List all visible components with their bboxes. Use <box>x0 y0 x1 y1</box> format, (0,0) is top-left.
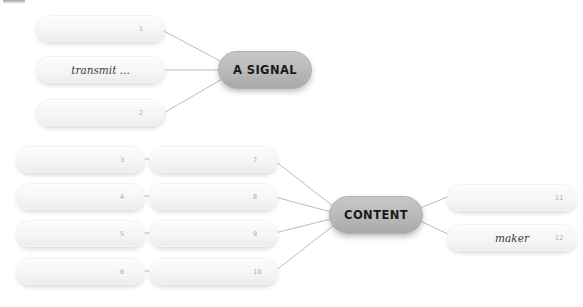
clipped-text-artifact <box>3 0 25 4</box>
hub-label: A SIGNAL <box>233 63 297 77</box>
node-label: transmit ... <box>37 64 164 76</box>
node-number: 4 <box>120 193 124 201</box>
mindmap-node-leaf-4[interactable]: 3 <box>16 146 145 173</box>
mindmap-canvas: 1transmit ...234567891011maker12A SIGNAL… <box>0 0 583 307</box>
edge-leaf-11-to-content <box>275 226 333 271</box>
edge-content-to-leaf-13 <box>420 221 450 235</box>
edge-content-to-leaf-12 <box>420 196 450 208</box>
mindmap-node-leaf-5[interactable]: 4 <box>16 183 145 210</box>
edge-leaf-8-to-content <box>275 161 333 206</box>
mindmap-node-leaf-6[interactable]: 5 <box>16 220 145 247</box>
mindmap-node-leaf-8[interactable]: 7 <box>149 146 278 173</box>
node-number: 3 <box>120 156 124 164</box>
node-number: 2 <box>139 109 143 117</box>
mindmap-node-leaf-3[interactable]: 2 <box>36 99 165 126</box>
mindmap-node-leaf-1[interactable]: 1 <box>36 15 165 42</box>
mindmap-node-leaf-2[interactable]: transmit ... <box>36 56 165 83</box>
mindmap-hub-content[interactable]: CONTENT <box>329 196 423 234</box>
mindmap-node-leaf-7[interactable]: 6 <box>16 258 145 285</box>
node-number: 11 <box>555 194 563 202</box>
node-number: 7 <box>253 156 257 164</box>
edge-leaf-1-to-a-signal <box>162 30 222 62</box>
node-number: 1 <box>139 25 143 33</box>
mindmap-node-leaf-11[interactable]: 10 <box>149 258 278 285</box>
node-number: 6 <box>120 268 124 276</box>
mindmap-node-leaf-10[interactable]: 9 <box>149 220 278 247</box>
mindmap-node-leaf-9[interactable]: 8 <box>149 183 278 210</box>
mindmap-node-leaf-12[interactable]: 11 <box>447 184 577 211</box>
node-number: 10 <box>253 268 261 276</box>
node-number: 9 <box>253 230 257 238</box>
edge-leaf-10-to-content <box>275 219 331 233</box>
node-number: 5 <box>120 230 124 238</box>
node-number: 12 <box>555 234 563 242</box>
node-number: 8 <box>253 193 257 201</box>
edge-leaf-3-to-a-signal <box>162 79 222 114</box>
edge-leaf-9-to-content <box>275 197 331 212</box>
hub-label: CONTENT <box>344 208 408 222</box>
mindmap-node-leaf-13[interactable]: maker12 <box>447 224 577 251</box>
mindmap-hub-a-signal[interactable]: A SIGNAL <box>218 51 312 89</box>
